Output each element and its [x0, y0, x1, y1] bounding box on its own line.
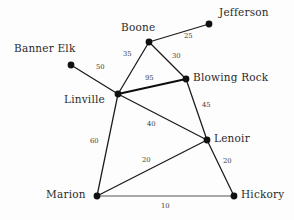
graph-canvas: [0, 0, 294, 220]
nodes-group: [68, 21, 238, 200]
city-label-banner-elk: Banner Elk: [14, 43, 75, 54]
edges-group: [71, 24, 234, 196]
graph-diagram: JeffersonBooneBanner ElkBlowing RockLinv…: [0, 0, 294, 220]
node-lenoir[interactable]: [204, 137, 211, 144]
edge-boone-jefferson: [149, 24, 209, 42]
node-marion[interactable]: [94, 193, 101, 200]
city-label-linville: Linville: [64, 94, 105, 105]
node-blowing-rock[interactable]: [183, 76, 190, 83]
node-boone[interactable]: [146, 39, 153, 46]
edge-boone-blowing-rock: [149, 42, 186, 79]
weight-label-boone-blowing-rock: 30: [172, 53, 181, 60]
weight-label-boone-jefferson: 25: [184, 33, 193, 40]
city-label-boone: Boone: [121, 22, 155, 33]
node-jefferson[interactable]: [206, 21, 213, 28]
edge-lenoir-hickory: [207, 140, 234, 196]
city-label-blowing-rock: Blowing Rock: [193, 72, 268, 83]
city-label-hickory: Hickory: [241, 189, 284, 200]
weight-label-linville-marion: 60: [90, 138, 99, 145]
node-linville[interactable]: [115, 91, 122, 98]
weight-label-marion-hickory: 10: [161, 203, 170, 210]
weight-label-blowing-rock-lenoir: 45: [202, 102, 211, 109]
city-label-lenoir: Lenoir: [214, 133, 250, 144]
weight-label-banner-elk-linville: 50: [96, 64, 105, 71]
weight-label-boone-linville: 35: [123, 51, 132, 58]
weight-label-lenoir-hickory: 20: [223, 158, 232, 165]
node-hickory[interactable]: [231, 193, 238, 200]
node-banner-elk[interactable]: [68, 62, 75, 69]
edge-banner-elk-linville: [71, 65, 118, 94]
weight-label-linville-blowing-rock: 95: [145, 75, 154, 82]
city-label-jefferson: Jefferson: [219, 7, 269, 18]
edge-linville-marion: [97, 94, 118, 196]
city-label-marion: Marion: [46, 189, 86, 200]
weight-label-linville-lenoir: 40: [147, 121, 156, 128]
weight-label-marion-lenoir: 20: [142, 157, 151, 164]
edge-marion-lenoir: [97, 140, 207, 196]
